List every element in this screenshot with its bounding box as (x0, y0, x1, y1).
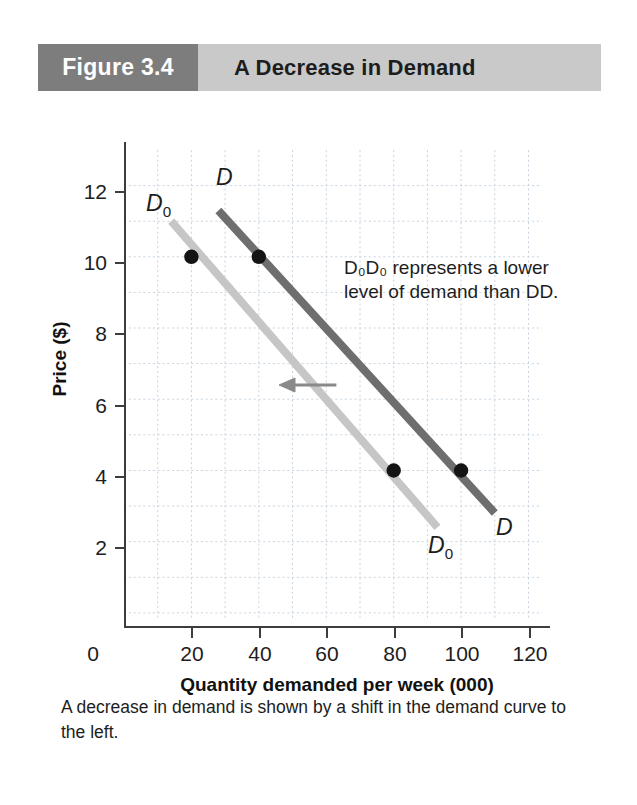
annotation-line-2: level of demand than DD. (344, 281, 558, 302)
y-tick-8 (115, 333, 126, 335)
demand-curves (124, 150, 542, 620)
y-tick-label-6: 6 (67, 394, 107, 418)
y-tick-label-4: 4 (67, 465, 107, 489)
curve-label-d-bottom: D (496, 514, 513, 541)
figure-card: Figure 3.4 A Decrease in Demand (0, 0, 637, 805)
curve-label-d0-top: D0 (146, 190, 171, 220)
x-tick-40 (259, 628, 261, 638)
x-tick-80 (394, 628, 396, 638)
y-tick-2 (115, 547, 126, 549)
y-axis-line (124, 142, 126, 628)
y-tick-4 (115, 476, 126, 478)
annotation-line-1: D₀D₀ represents a lower (344, 257, 549, 278)
x-tick-label-80: 80 (365, 642, 425, 666)
y-tick-10 (115, 262, 126, 264)
x-tick-label-20: 20 (162, 642, 222, 666)
y-tick-label-2: 2 (67, 536, 107, 560)
y-tick-6 (115, 405, 126, 407)
y-tick-label-12: 12 (67, 180, 107, 204)
data-point-d-40-10 (252, 250, 266, 264)
data-point-d0-80-4 (387, 463, 401, 477)
figure-header: Figure 3.4 A Decrease in Demand (38, 44, 601, 91)
chart-panel: D0 D D0 D 12 10 8 6 4 2 (61, 118, 601, 681)
x-tick-100 (461, 628, 463, 638)
curve-label-d0-bottom: D0 (428, 532, 453, 562)
figure-number-tag: Figure 3.4 (38, 44, 198, 91)
y-tick-12 (115, 191, 126, 193)
chart-annotation-text: D₀D₀ represents a lower level of demand … (344, 256, 584, 305)
x-axis-title: Quantity demanded per week (000) (124, 674, 550, 696)
figure-caption: A decrease in demand is shown by a shift… (61, 695, 589, 745)
x-tick-label-60: 60 (297, 642, 357, 666)
x-tick-label-100: 100 (432, 642, 492, 666)
x-axis-line (124, 626, 550, 628)
plot-area: D0 D D0 D (124, 150, 542, 620)
curve-label-d-top: D (216, 164, 233, 191)
x-tick-label-0: 0 (63, 642, 123, 666)
y-tick-label-8: 8 (67, 322, 107, 346)
x-tick-label-120: 120 (500, 642, 560, 666)
x-tick-60 (326, 628, 328, 638)
x-tick-20 (191, 628, 193, 638)
data-point-d-100-4 (454, 463, 468, 477)
x-tick-120 (529, 628, 531, 638)
y-axis-title: Price ($) (49, 322, 71, 397)
x-tick-label-40: 40 (230, 642, 290, 666)
data-point-d0-20-10 (184, 250, 198, 264)
y-tick-label-10: 10 (67, 251, 107, 275)
figure-title: A Decrease in Demand (198, 44, 601, 91)
